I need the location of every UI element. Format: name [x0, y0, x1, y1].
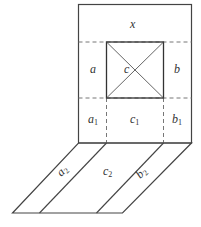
diagram-canvas: x a c b a1 c1 b1 a2 c2 b2: [0, 0, 201, 227]
label-b: b: [174, 62, 180, 76]
parallelogram-divider-right: [97, 143, 164, 213]
label-c1: c1: [130, 112, 139, 127]
parallelogram: [13, 143, 192, 213]
label-a1: a1: [88, 112, 98, 127]
label-c2: c2: [103, 164, 112, 179]
label-c: c: [124, 62, 130, 76]
label-a2: a2: [54, 162, 72, 180]
label-b1: b1: [172, 112, 182, 127]
parallelogram-divider-left: [40, 143, 107, 213]
label-a: a: [90, 62, 96, 76]
label-x: x: [129, 17, 136, 31]
